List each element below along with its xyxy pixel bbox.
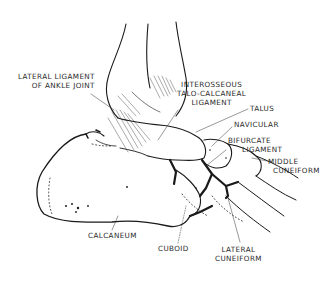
talus-outline xyxy=(118,118,206,161)
fibula-outline xyxy=(106,24,126,118)
leader-lateral-ligament xyxy=(91,94,114,110)
label-bifurcate: BIFURCATE LIGAMENT xyxy=(228,136,282,154)
leader-bifurcate xyxy=(206,150,226,166)
label-interosseous: INTEROSSEOUS TALO-CALCANEAL LIGAMENT xyxy=(177,80,246,107)
label-calcaneum: CALCANEUM xyxy=(88,231,137,240)
label-talus: TALUS xyxy=(250,104,274,113)
label-cuboid: CUBOID xyxy=(158,244,189,253)
leader-calcaneum xyxy=(112,216,118,230)
label-middle-cuneiform: MIDDLE CUNEIFORM xyxy=(268,157,320,175)
foot-bones-drawing xyxy=(0,0,334,283)
calcaneum-outline xyxy=(37,134,190,227)
label-lateral-ligament: LATERAL LIGAMENT OF ANKLE JOINT xyxy=(18,72,95,90)
label-navicular: NAVICULAR xyxy=(234,120,279,129)
leader-lateral-cuneiform xyxy=(228,198,240,242)
tibia-outline-left xyxy=(147,24,150,88)
label-lateral-cuneiform: LATERAL CUNEIFORM xyxy=(215,245,262,263)
